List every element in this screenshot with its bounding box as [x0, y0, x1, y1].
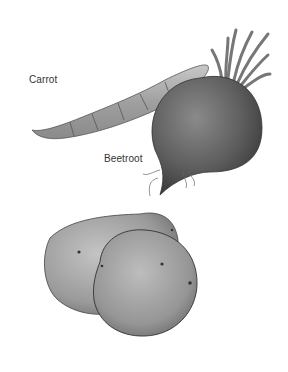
carrot-label: Carrot: [29, 74, 57, 85]
potatoes-drawing: [44, 213, 197, 336]
vegetable-illustration: [0, 0, 288, 372]
beetroot-drawing: [143, 30, 270, 196]
beetroot-label: Beetroot: [104, 153, 143, 164]
